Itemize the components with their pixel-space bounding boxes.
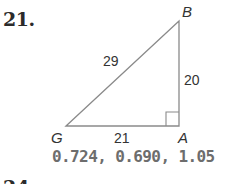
right-angle-marker-icon	[166, 112, 179, 126]
side-label-hypotenuse: 29	[103, 53, 119, 69]
vertex-label-a: A	[177, 129, 188, 146]
side-label-ga: 21	[114, 130, 130, 146]
vertex-label-b: B	[182, 3, 192, 20]
triangle-outline	[66, 21, 179, 126]
answer-text: 0.724, 0.690, 1.05	[52, 147, 215, 166]
side-label-ab: 20	[184, 72, 200, 88]
vertex-label-g: G	[51, 129, 63, 146]
next-problem-number: 24.	[3, 176, 36, 184]
